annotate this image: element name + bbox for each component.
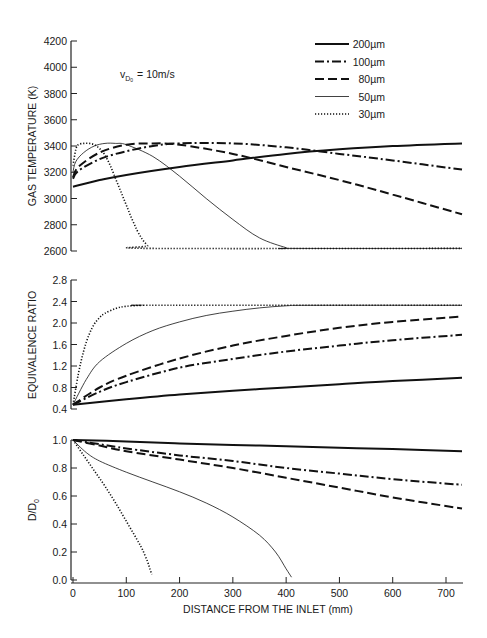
legend-label: 50µm [359,91,386,103]
x-tick-label: 600 [384,587,402,599]
y-tick-label-middle: 2.0 [52,317,67,329]
y-axis-title-diameter-ratio-main: D/D [26,503,38,522]
y-tick-label-top: 3000 [44,193,68,205]
series-line-top [73,143,462,214]
x-tick-label: 200 [171,587,189,599]
x-tick-label: 500 [331,587,349,599]
y-tick-label-top: 3600 [44,114,68,126]
legend-label: 80µm [359,73,386,85]
legend-label: 30µm [359,108,386,120]
y-tick-label-top: 4200 [44,35,68,47]
y-tick-label-bottom: 0.8 [52,462,67,474]
series-line-middle [73,378,462,405]
velocity-annotation: vD0= 10m/s [120,68,175,83]
legend: 200µm100µm80µm50µm30µm [315,38,385,120]
x-tick-label: 100 [118,587,136,599]
x-tick-label: 0 [70,587,76,599]
y-tick-label-bottom: 0.0 [52,574,67,586]
series-line-bottom [73,440,152,574]
y-axis-title-diameter-ratio: D/D0 [26,499,40,521]
x-tick-label: 400 [277,587,295,599]
y-tick-label-bottom: 0.2 [52,546,67,558]
series-line-top [73,143,462,248]
velocity-subsubscript: 0 [130,77,133,83]
series-line-middle [73,317,462,405]
y-tick-label-bottom: 0.6 [52,490,67,502]
y-tick-label-top: 3200 [44,166,68,178]
y-tick-label-middle: 1.6 [52,339,67,351]
y-tick-label-bottom: 0.4 [52,518,67,530]
y-tick-label-middle: 0.8 [52,382,67,394]
series-line-top [73,143,462,249]
y-tick-label-top: 3800 [44,88,68,100]
y-tick-label-middle: 2.8 [52,274,67,286]
chart-canvas: 2600280030003200340036003800400042000.40… [0,0,487,638]
y-axis-title-temperature: GAS TEMPERATURE (K) [26,86,38,206]
figure: 2600280030003200340036003800400042000.40… [0,0,487,638]
y-tick-label-middle: 2.4 [52,296,67,308]
y-axis-title-diameter-ratio-sub: 0 [33,499,40,503]
x-tick-label: 300 [224,587,242,599]
series-layer [73,143,462,577]
velocity-value: = 10m/s [137,68,175,80]
y-tick-label-top: 4000 [44,61,68,73]
y-tick-label-top: 2800 [44,219,68,231]
y-tick-label-middle: 0.4 [52,403,67,415]
y-tick-label-bottom: 1.0 [52,434,67,446]
series-line-top [73,143,462,186]
y-tick-label-middle: 1.2 [52,360,67,372]
legend-label: 200µm [353,38,386,50]
y-tick-label-top: 2600 [44,245,68,257]
x-axis-title: DISTANCE FROM THE INLET (mm) [183,603,353,615]
series-line-middle [73,335,462,405]
axes-layer: 2600280030003200340036003800400042000.40… [44,35,463,599]
legend-label: 100µm [353,56,386,68]
y-axis-title-equivalence-ratio: EQUIVALENCE RATIO [26,291,38,399]
x-tick-label: 700 [437,587,455,599]
y-tick-label-top: 3400 [44,140,68,152]
